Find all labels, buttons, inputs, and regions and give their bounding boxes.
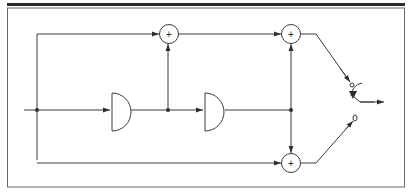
- adder-top-right: +: [282, 25, 301, 44]
- top-rule: [7, 3, 405, 6]
- adder3-output: [300, 121, 353, 163]
- switch-contact-top: [350, 83, 354, 87]
- adder-top-left: +: [160, 25, 179, 44]
- adder-symbol: +: [288, 29, 294, 40]
- junction-tap2: [289, 108, 293, 112]
- adder-bottom: +: [282, 154, 301, 173]
- adder2-output: [300, 34, 350, 82]
- junction-input: [35, 108, 39, 112]
- adder-symbol: +: [166, 29, 172, 40]
- delay-2: [205, 93, 224, 131]
- delay-1: [112, 93, 131, 131]
- junction-tap1: [166, 108, 170, 112]
- switch-output: [352, 95, 374, 102]
- adder-symbol: +: [288, 158, 294, 169]
- switch-contact-bottom: [353, 115, 357, 121]
- diagram-canvas: + + +: [0, 0, 411, 195]
